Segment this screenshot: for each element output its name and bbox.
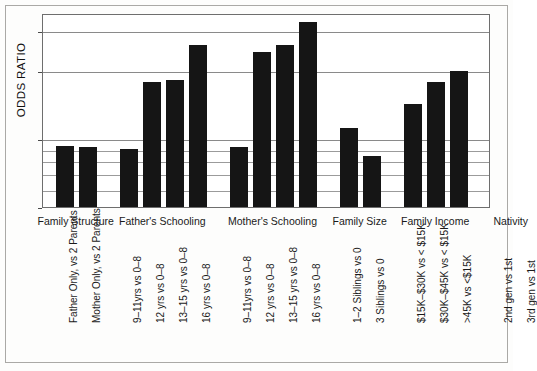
bar [143, 82, 161, 207]
bar-label: $15K–$30K vs < $15K [416, 223, 427, 323]
bar [340, 128, 358, 207]
bar [253, 52, 271, 207]
bar [299, 22, 317, 207]
bar-label: 13–15 yrs vs 0–8 [178, 247, 189, 323]
bar-label: 13–15 yrs vs 0–8 [288, 247, 299, 323]
bar [56, 146, 74, 207]
bar-label: Father Only, vs 2 Parents [68, 210, 79, 323]
group-label: Father's Schooling [119, 215, 206, 227]
bar [427, 82, 445, 207]
bar-label: 2nd gen vs 1st [503, 258, 514, 323]
bar [404, 104, 422, 207]
bar-label: 3rd gen vs 1st [526, 260, 537, 323]
bar [450, 71, 468, 207]
bar [276, 45, 294, 207]
bar-label: 1–2 Siblings vs 0 [352, 247, 363, 323]
bar-label: 16 yrs vs 0–8 [311, 264, 322, 323]
bar [230, 147, 248, 207]
bar-label: $30K–$45K vs < $15K [439, 223, 450, 323]
bar-label: 9–11yrs vs 0–8 [242, 256, 253, 323]
bar [166, 80, 184, 207]
bar [120, 149, 138, 207]
bar [363, 156, 381, 207]
bar-label: 16 yrs vs 0–8 [201, 264, 212, 323]
bar [79, 147, 97, 207]
group-label: Mother's Schooling [228, 215, 317, 227]
y-tick-mark [38, 208, 42, 209]
group-label: Family Size [333, 215, 387, 227]
group-label: Family Income [401, 215, 469, 227]
bar-label: 12 yrs vs 0–8 [155, 264, 166, 323]
bar [189, 45, 207, 207]
group-label: Nativity [494, 215, 528, 227]
gridline-3 [43, 32, 489, 33]
bar-label: >45K vs <$15K [462, 255, 473, 323]
bar-label: Mother Only, vs 2 Parents [91, 208, 102, 323]
plot-area [42, 14, 490, 208]
bar-label: 9–11yrs vs 0–8 [132, 256, 143, 323]
y-axis: 3210.5 [0, 0, 42, 224]
bar-label: 3 Siblings vs 0 [375, 259, 386, 323]
bar-label: 12 yrs vs 0–8 [265, 264, 276, 323]
